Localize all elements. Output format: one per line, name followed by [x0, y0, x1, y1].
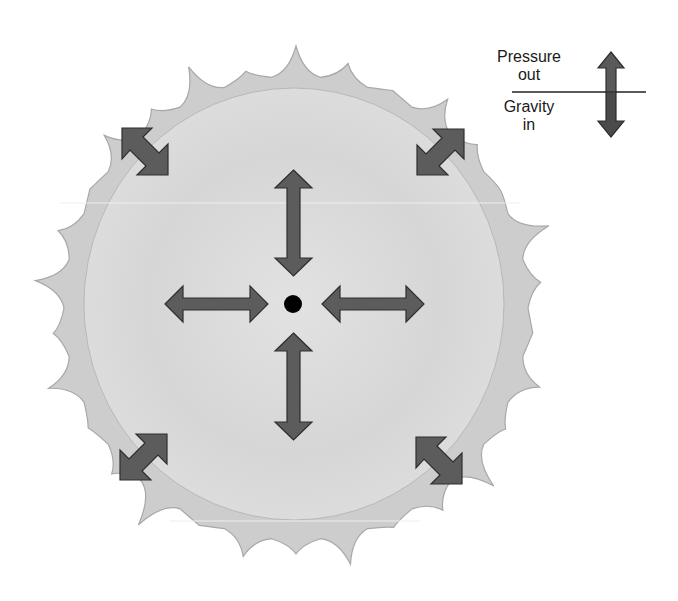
legend-pressure-label: Pressure out [484, 48, 574, 84]
legend-gravity-label: Gravity in [484, 98, 574, 134]
star-diagram [0, 0, 678, 601]
legend-gravity-line1: Gravity [484, 98, 574, 116]
star-center-dot [284, 295, 302, 313]
legend-arrow-in-icon [598, 92, 624, 137]
legend-gravity-line2: in [484, 116, 574, 134]
legend-arrow-out-icon [598, 52, 624, 92]
legend-pressure-line2: out [484, 66, 574, 84]
legend-pressure-line1: Pressure [484, 48, 574, 66]
